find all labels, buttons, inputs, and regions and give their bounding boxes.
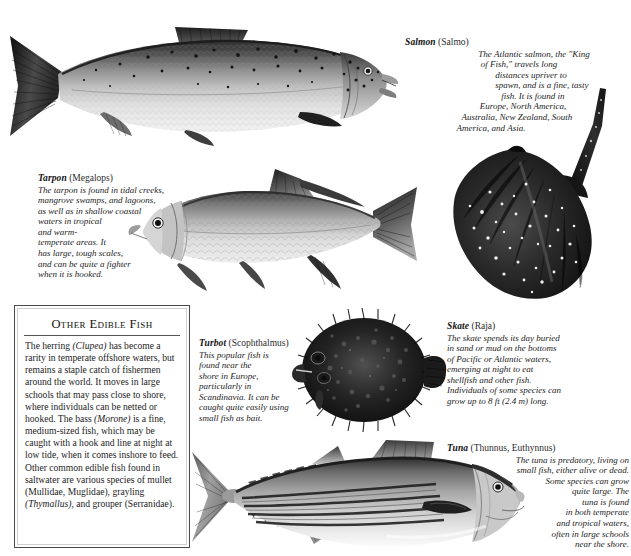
turbot-name: Turbot xyxy=(199,338,226,348)
salmon-genus: (Salmo) xyxy=(438,37,469,47)
other-edible-fish-panel: Other Edible Fish The herring (Clupea) h… xyxy=(14,305,190,548)
skate-illustration xyxy=(430,86,631,321)
turbot-caption-heading: Turbot (Scophthalmus) xyxy=(199,337,317,349)
sidebar-body-text: The herring (Clupea) has become a rarity… xyxy=(25,340,179,510)
tuna-caption: Tuna (Thunnus, Euthynnus) The tuna is pr… xyxy=(447,442,629,550)
skate-name: Skate xyxy=(447,321,469,331)
tuna-caption-body: The tuna is predatory, living on small f… xyxy=(447,455,629,550)
tarpon-caption: Tarpon (Megalops) The tarpon is found in… xyxy=(38,172,218,280)
turbot-caption: Turbot (Scophthalmus) This popular fish … xyxy=(199,337,317,424)
tarpon-name: Tarpon xyxy=(38,173,67,183)
skate-caption-body: The skate spends its day buried in sand … xyxy=(447,333,629,407)
skate-genus: (Raja) xyxy=(472,321,496,331)
skate-caption: Skate (Raja) The skate spends its day bu… xyxy=(447,320,629,407)
skate-caption-heading: Skate (Raja) xyxy=(447,320,629,332)
sidebar-title: Other Edible Fish xyxy=(24,317,180,336)
tuna-genus: (Thunnus, Euthynnus) xyxy=(471,443,556,453)
tarpon-caption-heading: Tarpon (Megalops) xyxy=(38,172,218,184)
tarpon-caption-body: The tarpon is found in tidal creeks, man… xyxy=(38,185,218,280)
tuna-name: Tuna xyxy=(447,443,468,453)
illustrated-fish-page: Salmon (Salmo) The Atlantic salmon, the … xyxy=(0,0,631,556)
tuna-caption-heading: Tuna (Thunnus, Euthynnus) xyxy=(447,442,629,454)
salmon-illustration xyxy=(0,24,400,169)
turbot-caption-body: This popular fish is found near the shor… xyxy=(199,350,317,424)
tarpon-genus: (Megalops) xyxy=(69,173,113,183)
turbot-genus: (Scophthalmus) xyxy=(229,338,289,348)
salmon-name: Salmon xyxy=(405,37,436,47)
salmon-caption-heading: Salmon (Salmo) xyxy=(405,36,629,48)
